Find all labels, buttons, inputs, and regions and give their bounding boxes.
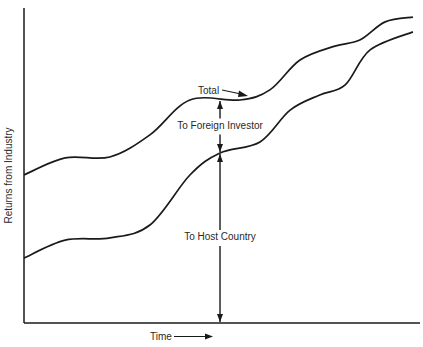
annotation-host-country: To Host Country (184, 231, 256, 242)
foreign-arrow-up-head (217, 101, 223, 109)
time-arrow-head (205, 334, 213, 340)
time-arrow-icon (174, 334, 213, 340)
y-axis-label: Returns from Industry (3, 127, 14, 223)
x-axis-label: Time (150, 331, 172, 342)
total-arrow-head (238, 91, 248, 98)
host-arrow-down-head (217, 314, 223, 322)
series-line-total (24, 17, 413, 175)
total-arrow-shaft (222, 90, 241, 94)
returns-diagram: Returns from Industry Time Total To Fore… (0, 0, 423, 347)
foreign-arrow-down-head (217, 144, 223, 152)
annotation-total: Total (198, 85, 219, 96)
host-arrow-up-head (217, 154, 223, 162)
dimension-arrows (217, 101, 223, 322)
total-pointer-arrow-icon (222, 90, 248, 97)
annotation-foreign-investor: To Foreign Investor (177, 120, 263, 131)
